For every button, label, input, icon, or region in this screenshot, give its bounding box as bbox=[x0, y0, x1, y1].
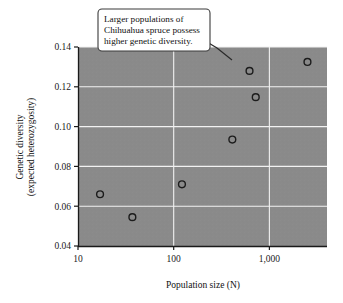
chart-svg: 0.040.060.080.100.120.14 101001,000 Larg… bbox=[0, 0, 343, 303]
y-tick-label: 0.06 bbox=[54, 202, 71, 212]
y-axis-title-line-2: (expected heterozygosity) bbox=[26, 98, 37, 196]
y-tick-label: 0.04 bbox=[54, 241, 71, 251]
y-tick-label: 0.08 bbox=[54, 162, 71, 172]
x-tick-label: 10 bbox=[73, 254, 83, 264]
y-axis-title-line-1: Genetic diversity bbox=[15, 114, 25, 179]
x-tick-label: 100 bbox=[167, 254, 182, 264]
callout-line-1: Larger populations of bbox=[104, 14, 184, 24]
y-tick-label: 0.10 bbox=[54, 122, 71, 132]
y-tick-label: 0.14 bbox=[54, 42, 71, 52]
y-tick-label: 0.12 bbox=[54, 82, 71, 92]
x-tick-label: 1,000 bbox=[259, 254, 281, 264]
y-axis-ticks: 0.040.060.080.100.120.14 bbox=[54, 42, 78, 251]
scatter-plot-figure: 0.040.060.080.100.120.14 101001,000 Larg… bbox=[0, 0, 343, 303]
y-axis-title: Genetic diversity (expected heterozygosi… bbox=[15, 98, 37, 196]
callout-line-2: Chihuahua spruce possess bbox=[104, 25, 200, 35]
callout-line-3: higher genetic diversity. bbox=[104, 36, 192, 46]
x-axis-title: Population size (N) bbox=[166, 280, 240, 291]
callout-annotation: Larger populations of Chihuahua spruce p… bbox=[98, 9, 210, 51]
plot-texture bbox=[78, 47, 327, 246]
x-axis-ticks: 101001,000 bbox=[73, 246, 280, 264]
